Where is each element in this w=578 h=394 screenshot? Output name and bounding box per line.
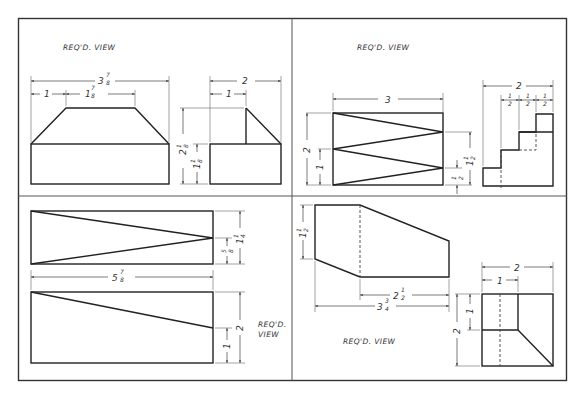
side-view-staircase — [483, 114, 553, 190]
svg-text:1: 1 — [497, 276, 503, 286]
svg-text:1: 1 — [295, 228, 302, 232]
svg-text:8: 8 — [106, 79, 110, 86]
svg-text:1: 1 — [465, 308, 475, 314]
reqd-view-label-line2: VIEW — [258, 330, 279, 339]
dimension-lines — [31, 211, 240, 363]
svg-text:5: 5 — [112, 273, 118, 283]
svg-text:2: 2 — [401, 294, 405, 301]
svg-text:2: 2 — [516, 81, 522, 91]
dimension-lines — [307, 86, 553, 194]
svg-text:2: 2 — [302, 228, 309, 232]
front-view-trapezoid — [31, 108, 169, 184]
dimension-lines — [31, 81, 281, 184]
svg-text:1: 1 — [85, 89, 91, 99]
svg-text:1: 1 — [222, 343, 232, 349]
dimension-text: 1 1 2 2 1 2 3 3 4 2 1 2 1 — [295, 228, 520, 334]
svg-text:1: 1 — [232, 234, 239, 238]
panel-bottom-left: 5 7 8 1 1 4 5 8 2 1 REQ'D. VIEW — [31, 211, 286, 363]
svg-text:7: 7 — [91, 84, 95, 91]
svg-text:2: 2 — [452, 328, 462, 334]
svg-text:2: 2 — [543, 100, 547, 107]
svg-text:7: 7 — [120, 268, 124, 275]
svg-text:2: 2 — [235, 325, 245, 331]
svg-text:7: 7 — [106, 71, 110, 78]
drawing-sheet: REQ'D. VIEW — [0, 0, 578, 394]
svg-text:3: 3 — [385, 297, 389, 304]
svg-text:1: 1 — [543, 92, 547, 99]
svg-text:4: 4 — [239, 234, 246, 238]
svg-text:3: 3 — [377, 302, 383, 312]
svg-text:1: 1 — [401, 286, 405, 293]
front-view-chamfered-block — [315, 205, 449, 277]
svg-text:8: 8 — [91, 92, 95, 99]
side-view-wedge — [210, 108, 281, 184]
svg-text:8: 8 — [196, 159, 203, 163]
svg-text:2: 2 — [469, 156, 476, 160]
svg-text:3: 3 — [98, 76, 104, 86]
panel-top-left: REQ'D. VIEW — [31, 43, 281, 184]
svg-text:3: 3 — [385, 95, 391, 105]
svg-text:4: 4 — [385, 305, 389, 312]
svg-text:2: 2 — [508, 100, 512, 107]
svg-text:8: 8 — [227, 249, 234, 253]
svg-text:1: 1 — [189, 159, 196, 163]
svg-text:2: 2 — [393, 291, 399, 301]
front-view-slope — [31, 292, 213, 363]
reqd-view-label: REQ'D. VIEW — [357, 43, 410, 52]
svg-text:1: 1 — [235, 238, 245, 244]
panel-bottom-right: 1 1 2 2 1 2 3 3 4 2 1 2 1 REQ'D. VIEW — [295, 205, 553, 366]
svg-text:2: 2 — [526, 100, 530, 107]
svg-text:2: 2 — [178, 149, 188, 155]
svg-text:1: 1 — [175, 144, 182, 148]
reqd-view-label-line1: REQ'D. — [258, 320, 286, 329]
svg-text:1: 1 — [298, 232, 308, 238]
svg-text:1: 1 — [192, 163, 202, 169]
reqd-view-label: REQ'D. VIEW — [343, 337, 396, 346]
top-view-wedge — [31, 211, 213, 264]
svg-text:1: 1 — [226, 89, 232, 99]
reqd-view-label: REQ'D. VIEW — [63, 43, 116, 52]
svg-text:1: 1 — [462, 156, 469, 160]
svg-text:2: 2 — [514, 263, 520, 273]
svg-text:1: 1 — [508, 92, 512, 99]
svg-text:2: 2 — [302, 147, 312, 153]
svg-text:2: 2 — [242, 76, 248, 86]
front-view-zigzag — [333, 113, 443, 185]
panel-top-right: REQ'D. VIEW — [302, 43, 553, 194]
svg-text:8: 8 — [182, 144, 189, 148]
svg-text:1: 1 — [315, 164, 325, 170]
svg-text:1: 1 — [465, 160, 475, 166]
svg-text:8: 8 — [120, 276, 124, 283]
svg-text:5: 5 — [220, 249, 227, 253]
svg-text:1: 1 — [450, 176, 457, 180]
svg-text:1: 1 — [44, 89, 50, 99]
svg-text:2: 2 — [457, 176, 464, 180]
dimension-lines — [303, 205, 553, 366]
svg-text:1: 1 — [526, 92, 530, 99]
side-view-square — [482, 294, 553, 366]
